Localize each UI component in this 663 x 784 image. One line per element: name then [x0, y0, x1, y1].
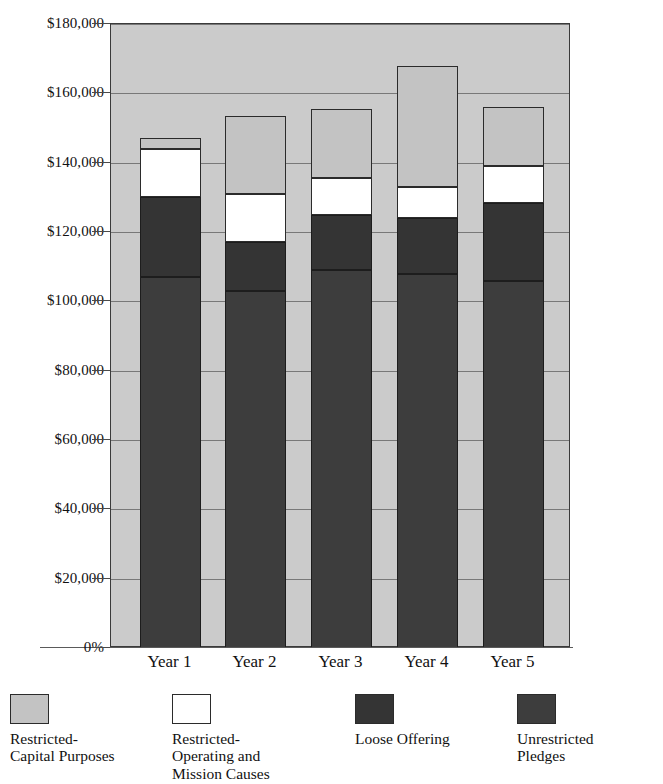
bar-segment-pledges [311, 270, 372, 648]
y-axis-tick-label: $180,000 [0, 15, 104, 32]
y-axis-tick-mark [92, 231, 110, 232]
legend-swatch-loose [355, 694, 394, 724]
bar-segment-pledges [225, 291, 286, 648]
bar-column [311, 24, 372, 648]
y-axis-tick-mark [92, 162, 110, 163]
y-axis-tick-label: 0% [0, 639, 104, 656]
y-axis-tick-label: $140,000 [0, 153, 104, 170]
y-axis-tick-mark [92, 508, 110, 509]
legend-swatch-pledges [517, 694, 556, 724]
bar-segment-operating [225, 194, 286, 243]
bar-segment-pledges [483, 281, 544, 648]
bar-column [225, 24, 286, 648]
bar-segment-operating [483, 166, 544, 202]
bar-segment-pledges [397, 274, 458, 648]
stacked-bar-chart: $180,000$160,000$140,000$120,000$100,000… [0, 0, 663, 784]
legend-label: Restricted- Operating and Mission Causes [172, 730, 270, 782]
y-axis-tick-mark [92, 92, 110, 93]
plot-area [110, 23, 570, 647]
y-axis-tick-mark [92, 578, 110, 579]
y-axis-tick-mark [92, 300, 110, 301]
bar-segment-loose [483, 203, 544, 281]
y-axis-tick-label: $160,000 [0, 84, 104, 101]
legend-item[interactable]: Restricted- Capital Purposes [10, 694, 115, 765]
bar-segment-capital [225, 116, 286, 194]
legend-label: Loose Offering [355, 730, 450, 747]
y-axis-tick-label: $80,000 [0, 361, 104, 378]
legend-label: Restricted- Capital Purposes [10, 730, 115, 765]
y-axis-tick-label: $20,000 [0, 569, 104, 586]
bar-segment-capital [140, 138, 201, 148]
bar-segment-loose [311, 215, 372, 270]
y-axis-tick-label: $40,000 [0, 500, 104, 517]
legend-item[interactable]: Unrestricted Pledges [517, 694, 594, 765]
bar-segment-operating [397, 187, 458, 218]
y-axis-tick-label: $100,000 [0, 292, 104, 309]
bar-segment-operating [140, 149, 201, 198]
y-axis-tick-mark [92, 23, 110, 24]
y-axis-tick-mark [92, 439, 110, 440]
bar-segment-loose [140, 197, 201, 277]
x-axis-line [40, 647, 573, 648]
bar-segment-loose [397, 218, 458, 273]
bar-segment-capital [397, 66, 458, 187]
bar-segment-pledges [140, 277, 201, 648]
bar-column [140, 24, 201, 648]
y-axis-tick-mark [92, 370, 110, 371]
y-axis-tick-label: $60,000 [0, 431, 104, 448]
bar-segment-capital [483, 107, 544, 166]
bar-column [483, 24, 544, 648]
y-axis-tick-mark [92, 647, 110, 648]
chart-legend: Restricted- Capital PurposesRestricted- … [0, 694, 663, 784]
bar-segment-capital [311, 109, 372, 178]
legend-item[interactable]: Restricted- Operating and Mission Causes [172, 694, 270, 782]
x-axis-label-5: Year 5 [453, 652, 573, 672]
legend-swatch-operating [172, 694, 211, 724]
bar-segment-loose [225, 242, 286, 291]
legend-item[interactable]: Loose Offering [355, 694, 450, 747]
legend-swatch-capital [10, 694, 49, 724]
bar-column [397, 24, 458, 648]
legend-label: Unrestricted Pledges [517, 730, 594, 765]
bar-segment-operating [311, 178, 372, 214]
y-axis-tick-label: $120,000 [0, 223, 104, 240]
